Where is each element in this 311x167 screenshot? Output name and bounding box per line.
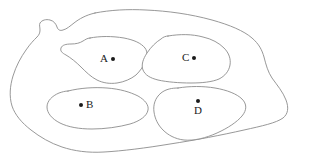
region-label-c: C: [182, 52, 189, 63]
region-dot-c: [192, 56, 196, 60]
region-dot-d: [196, 99, 200, 103]
region-marker-c: C: [182, 52, 196, 63]
region-label-a: A: [100, 53, 108, 64]
region-marker-d: D: [194, 99, 202, 116]
region-marker-a: A: [100, 53, 115, 64]
region-marker-b: B: [79, 99, 93, 110]
region-dot-b: [79, 103, 83, 107]
region-label-b: B: [86, 99, 93, 110]
region-dot-a: [111, 57, 115, 61]
region-marker-layer: A B C D: [0, 0, 311, 167]
region-map-figure: A B C D: [0, 0, 311, 167]
region-label-d: D: [194, 105, 202, 116]
